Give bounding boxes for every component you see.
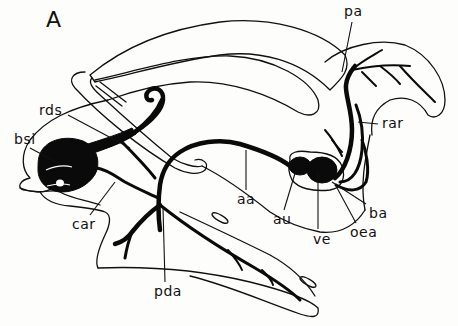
circulatory-system-drawing	[0, 0, 458, 326]
label-bsi: bsi	[14, 132, 36, 146]
pda-vessel	[115, 205, 160, 244]
label-pa: pa	[344, 4, 362, 18]
pa-branch-4	[400, 66, 435, 102]
label-oea: oea	[350, 225, 377, 239]
ventricle	[307, 157, 337, 183]
label-rds: rds	[39, 103, 62, 117]
leader-ba	[332, 182, 366, 204]
foot-organ-mark-1	[211, 211, 230, 225]
pa-branch-3	[380, 66, 400, 84]
label-ve: ve	[313, 232, 331, 246]
pa-branch-5	[362, 72, 376, 86]
foot-outline	[98, 268, 318, 317]
snout-outline	[20, 188, 52, 192]
eye-highlight	[56, 180, 64, 187]
label-ba: ba	[369, 206, 387, 220]
spiral-vessel	[135, 88, 163, 132]
rar-twig-2	[332, 140, 342, 152]
dorsal-lobe-outline	[90, 21, 347, 90]
leader-car	[90, 182, 115, 215]
label-au: au	[273, 212, 291, 226]
panel-letter: A	[46, 9, 61, 31]
label-aa: aa	[237, 192, 255, 206]
posterior-aorta-vessel	[335, 66, 355, 178]
leader-pda	[163, 208, 165, 282]
anatomical-figure: A pa rar rds bsi car aa au ve ba oea pda	[0, 0, 458, 326]
middle-lobe-outline	[95, 56, 319, 115]
tube-lines	[96, 82, 126, 106]
label-rar: rar	[382, 116, 404, 130]
label-car: car	[72, 217, 96, 231]
label-pda: pda	[154, 284, 182, 298]
